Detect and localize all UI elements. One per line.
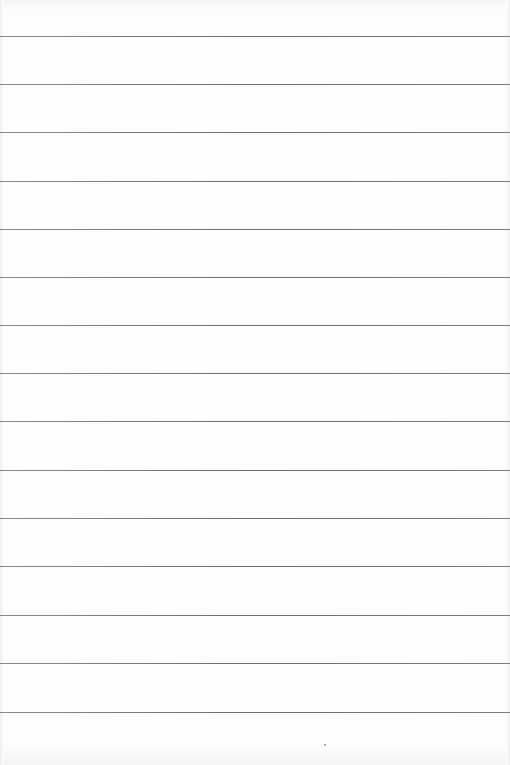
ruled-line-7	[0, 325, 510, 326]
ruled-line-2	[0, 84, 510, 85]
ruled-line-6	[0, 277, 510, 278]
page-edge-right	[506, 0, 510, 765]
ruled-line-15	[0, 712, 510, 713]
ruled-line-13	[0, 615, 510, 616]
ruled-line-1	[0, 36, 510, 37]
ruled-line-12	[0, 566, 510, 567]
ruled-line-4	[0, 181, 510, 182]
ruled-line-9	[0, 421, 510, 422]
ruled-line-11	[0, 518, 510, 519]
ruled-line-8	[0, 373, 510, 374]
paper-speck	[324, 744, 326, 746]
page-edge-left	[0, 0, 4, 765]
lined-paper-page	[0, 0, 510, 765]
ruled-line-3	[0, 132, 510, 133]
ruled-line-10	[0, 470, 510, 471]
ruled-line-5	[0, 229, 510, 230]
ruled-line-14	[0, 663, 510, 664]
